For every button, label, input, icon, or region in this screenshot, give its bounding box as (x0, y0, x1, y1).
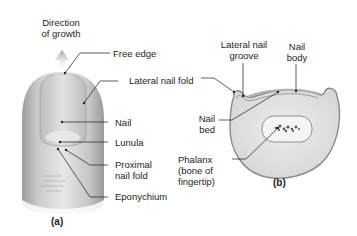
growth-label-line1: Direction (30, 17, 92, 28)
phalanx-line3: fingertip) (178, 176, 215, 187)
label-lateral-nail-groove: Lateral nail groove (214, 39, 274, 61)
nail-bed-line2: bed (185, 124, 215, 135)
label-lunula: Lunula (115, 137, 144, 148)
label-proximal-nail-fold: Proximal nail fold (115, 159, 152, 181)
finger-illustration (22, 72, 104, 214)
phalanx-line2: (bone of (178, 165, 215, 176)
label-free-edge: Free edge (113, 48, 156, 59)
growth-arrow (55, 50, 69, 72)
panel-b-caption: (b) (273, 177, 286, 188)
label-lateral-nail-fold: Lateral nail fold (129, 75, 193, 86)
groove-line2: groove (214, 50, 274, 61)
groove-line1: Lateral nail (214, 39, 274, 50)
label-nail-bed: Nail bed (185, 113, 215, 135)
nail-body-line2: body (282, 52, 312, 63)
nail-body-line1: Nail (282, 41, 312, 52)
proximal-line2: nail fold (115, 170, 152, 181)
label-nail: Nail (115, 117, 131, 128)
panel-a-caption: (a) (51, 216, 63, 227)
fingertip-cross-section (230, 88, 339, 178)
label-eponychium: Eponychium (115, 191, 167, 202)
nail-bed-line1: Nail (185, 113, 215, 124)
direction-of-growth-label: Direction of growth (30, 17, 92, 39)
proximal-line1: Proximal (115, 159, 152, 170)
phalanx-line1: Phalanx (178, 154, 215, 165)
label-nail-body: Nail body (282, 41, 312, 63)
label-phalanx: Phalanx (bone of fingertip) (178, 154, 215, 187)
growth-label-line2: of growth (30, 28, 92, 39)
